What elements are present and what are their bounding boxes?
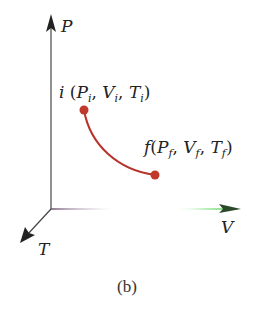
p-axis-label: P (60, 16, 73, 36)
initial-state-point (80, 106, 89, 115)
final-state-label: f(Pf, Vf, Tf) (142, 137, 233, 160)
v-axis-label: V (221, 217, 235, 237)
v-axis: V (51, 204, 241, 237)
pvt-diagram: P V T i (Pi, Vi, Ti) f(Pf, Vf, Tf) (b) (0, 0, 254, 316)
figure-caption: (b) (117, 277, 137, 296)
initial-state-label: i (Pi, Vi, Ti) (59, 82, 150, 105)
final-state-point (151, 171, 160, 180)
t-axis-label: T (38, 239, 51, 259)
p-axis: P (46, 14, 73, 209)
t-axis: T (20, 209, 51, 259)
